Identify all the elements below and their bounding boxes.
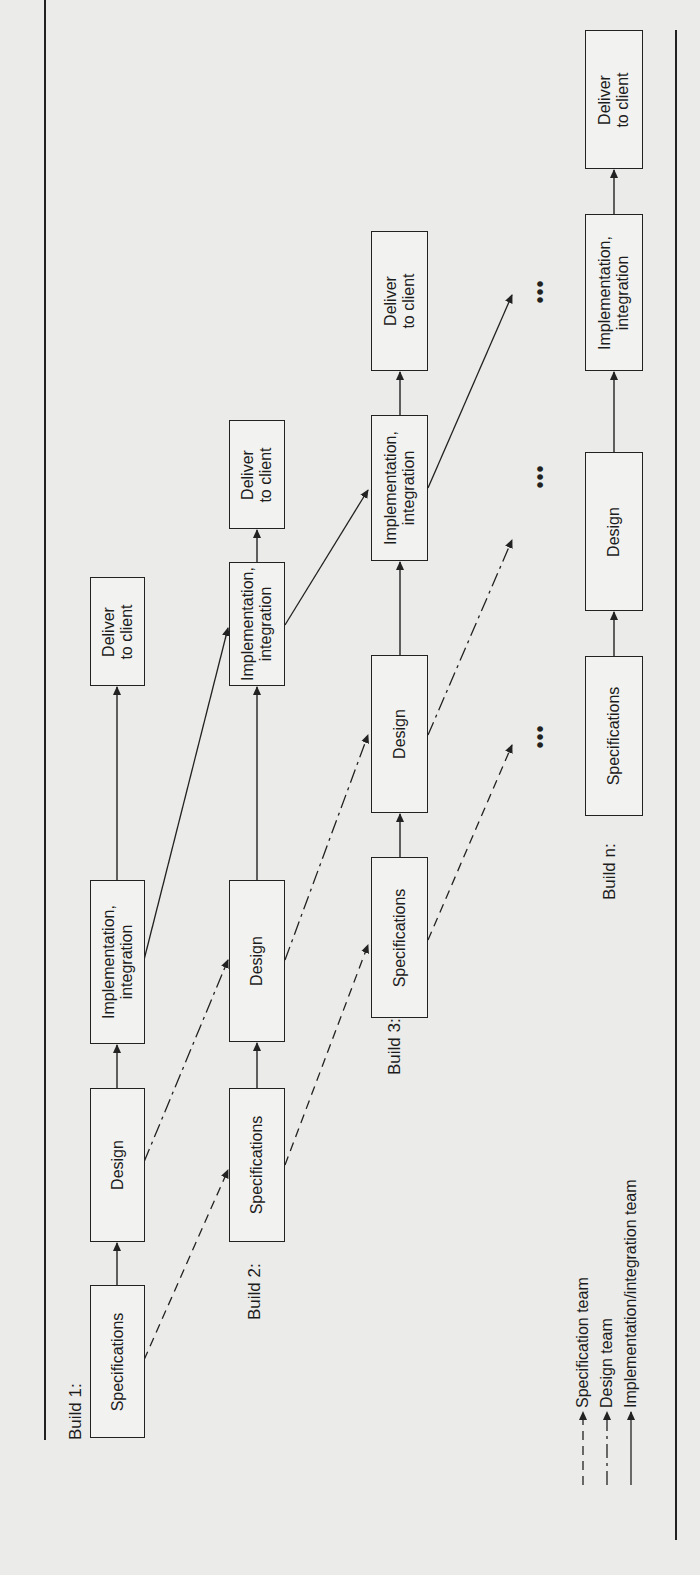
build-1-implementation-box: Implementation, integration: [90, 880, 145, 1044]
build-n-design-box: Design: [585, 452, 643, 611]
build-1-specifications-box: Specifications: [90, 1285, 145, 1438]
build-n-implementation-box: Implementation, integration: [585, 214, 643, 371]
build-3-specifications-box: Specifications: [371, 857, 428, 1018]
box-label: Deliver to client: [100, 604, 136, 659]
build-2-deliver-box: Deliver to client: [229, 420, 285, 529]
legend-design-team: Design team: [598, 1318, 616, 1408]
box-label: Design: [109, 1140, 127, 1190]
box-label: Specifications: [605, 687, 623, 786]
ellipsis-specifications: •••: [529, 724, 552, 748]
build-3-implementation-box: Implementation, integration: [371, 415, 428, 561]
legend-implementation-integration-team: Implementation/integration team: [622, 1179, 640, 1408]
legend-specification-team: Specification team: [574, 1277, 592, 1408]
build-3-deliver-box: Deliver to client: [371, 231, 428, 371]
build-n-specifications-box: Specifications: [585, 656, 643, 816]
box-label: Specifications: [109, 1312, 127, 1411]
box-label: Design: [391, 709, 409, 759]
build-n-label: Build n:: [600, 843, 620, 900]
box-label: Implementation, integration: [100, 905, 136, 1019]
box-label: Design: [605, 507, 623, 557]
box-label: Deliver to client: [382, 273, 418, 328]
box-label: Design: [248, 936, 266, 986]
box-label: Implementation, integration: [596, 236, 632, 350]
box-label: Deliver to client: [239, 447, 275, 502]
build-n-deliver-box: Deliver to client: [585, 30, 643, 169]
box-label: Implementation, integration: [239, 567, 275, 681]
build-1-deliver-box: Deliver to client: [90, 577, 145, 686]
build-2-design-box: Design: [229, 880, 285, 1042]
build-1-design-box: Design: [90, 1088, 145, 1242]
box-label: Specifications: [391, 888, 409, 987]
box-label: Deliver to client: [596, 72, 632, 127]
build-1-label: Build 1:: [66, 1383, 86, 1440]
box-label: Implementation, integration: [382, 431, 418, 545]
build-2-implementation-box: Implementation, integration: [229, 562, 285, 686]
build-2-specifications-box: Specifications: [229, 1088, 285, 1242]
build-3-design-box: Design: [371, 655, 428, 813]
build-2-label: Build 2:: [245, 1263, 265, 1320]
box-label: Specifications: [248, 1116, 266, 1215]
page: Build 1: Specifications Design Implement…: [0, 0, 700, 1575]
ellipsis-implementation: •••: [529, 279, 552, 303]
ellipsis-design: •••: [529, 464, 552, 488]
build-3-label: Build 3:: [385, 1018, 405, 1075]
